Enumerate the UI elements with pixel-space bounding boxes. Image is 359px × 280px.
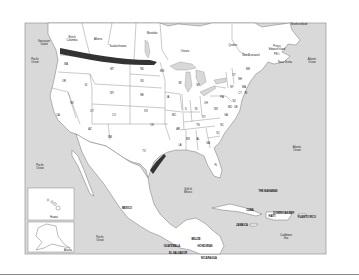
state-label-ct: CT xyxy=(238,91,242,95)
new-brunswick-label: New Brunswick xyxy=(242,53,260,57)
state-label-in: IN xyxy=(195,107,198,111)
state-label-nv: NV xyxy=(70,101,74,105)
ontario-label: Ontario xyxy=(181,49,190,53)
state-label-ca: CA xyxy=(56,113,60,117)
nicaragua-label: NICARAGUA xyxy=(201,256,217,260)
pacific-lower-label: PacificOcean xyxy=(96,235,104,242)
jamaica-label: JAMAICA xyxy=(236,223,248,227)
state-label-co: CO xyxy=(112,113,116,117)
belize-label: BELIZE xyxy=(191,237,200,241)
state-label-ma: MA xyxy=(242,85,246,89)
state-label-de: DE xyxy=(234,105,238,109)
state-label-ne: NE xyxy=(140,93,144,97)
alberta-label: Alberta xyxy=(94,37,103,41)
gulf-of-mexico-label: Gulf ofMexico xyxy=(184,187,193,194)
state-label-oh: OH xyxy=(204,101,208,105)
state-label-mi: MI xyxy=(197,83,200,87)
state-label-ga: GA xyxy=(206,141,210,145)
state-label-ky: KY xyxy=(202,115,206,119)
atlantic-upper-label: AtlanticOcean xyxy=(308,57,317,64)
puerto-rico-label: PUERTO RICO xyxy=(298,215,316,219)
state-label-ri: RI xyxy=(245,91,248,95)
atlantic-middle-label: AtlanticOcean xyxy=(293,145,302,152)
state-label-va: VA xyxy=(224,113,228,117)
state-label-al: AL xyxy=(196,137,200,141)
state-label-ut: UT xyxy=(90,109,94,113)
pacific-middle-label: PacificOcean xyxy=(36,163,44,170)
manitoba-label: Manitoba xyxy=(147,31,158,35)
state-label-wv: WV xyxy=(214,107,218,111)
state-label-vt: VT xyxy=(232,73,236,77)
state-label-tx: TX xyxy=(142,149,146,153)
alaska-label: Alaska xyxy=(64,248,72,252)
guatemala-label: GUATEMALA xyxy=(164,244,181,248)
state-label-ks: KS xyxy=(144,109,148,113)
state-label-ia: IA xyxy=(167,95,170,99)
hawaii-label: Hawaii xyxy=(50,215,58,219)
state-label-sc: SC xyxy=(216,131,220,135)
state-label-tn: TN xyxy=(196,123,200,127)
state-label-mt: MT xyxy=(110,67,114,71)
state-label-ny: NY xyxy=(230,85,234,89)
north-america-map: PacificOcean PacificOcean PacificOcean A… xyxy=(0,0,359,280)
state-label-nm: NM xyxy=(108,135,112,139)
state-label-wa: WA xyxy=(64,62,68,66)
the-bahamas-label: THE BAHAMAS xyxy=(258,189,277,193)
newfoundland-label: Newfoundland xyxy=(291,22,308,26)
state-label-me: ME xyxy=(246,67,250,71)
dominican-republic-label: DOMINICAN REP. xyxy=(273,211,295,215)
quebec-label: Quebec xyxy=(228,43,238,47)
state-label-wi: WI xyxy=(178,81,181,85)
state-label-wy: WY xyxy=(110,91,114,95)
horizontal-rule xyxy=(0,274,359,275)
state-label-sd: SD xyxy=(140,79,144,83)
state-label-mn: MN xyxy=(160,69,164,73)
nova-scotia-label: Nova Scotia xyxy=(278,60,293,64)
state-label-nc: NC xyxy=(220,123,224,127)
pei-abbrev-label: P.E.I. xyxy=(274,52,280,56)
state-label-or: OR xyxy=(62,79,66,83)
state-label-nd: ND xyxy=(140,67,144,71)
state-label-la: LA xyxy=(178,143,181,147)
pacific-upper-label: PacificOcean xyxy=(31,57,39,64)
state-label-ok: OK xyxy=(150,123,154,127)
saskatchewan-label: Saskatchewan xyxy=(110,44,127,48)
honduras-label: HONDURAS xyxy=(198,244,213,248)
state-label-nh: NH xyxy=(238,77,242,81)
state-label-mo: MO xyxy=(172,113,176,117)
state-label-id: ID xyxy=(85,83,88,87)
cuba-label: CUBA xyxy=(246,208,254,212)
state-label-ar: AR xyxy=(176,127,180,131)
el-salvador-label: EL SALVADOR xyxy=(169,251,187,255)
state-label-az: AZ xyxy=(88,127,92,131)
mexico-label: MEXICO xyxy=(122,206,132,210)
state-label-md: MD xyxy=(228,105,232,109)
state-label-ms: MS xyxy=(186,137,190,141)
state-label-pa: PA xyxy=(220,95,224,99)
